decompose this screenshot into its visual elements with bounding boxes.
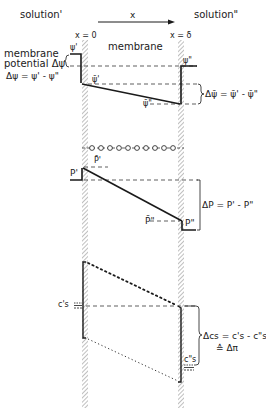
- cs-left-marks: [74, 303, 82, 308]
- delta-psi-definition: Δψ = ψ' - ψ": [6, 71, 59, 81]
- delta-psibar-label: Δψ̄ = ψ̄' - ψ̄": [205, 89, 258, 99]
- x-axis-label: x: [130, 10, 135, 20]
- cs-right-label: c"s: [184, 355, 196, 365]
- concentration-walls-bold: [83, 262, 181, 382]
- membrane-label: membrane: [108, 42, 163, 52]
- p-left-label: P': [70, 168, 78, 178]
- p-right-label: P": [185, 218, 195, 228]
- psibar-left-label: ψ̄': [92, 75, 99, 85]
- pbar-left-label: P̄': [94, 156, 101, 166]
- delta-cs-label: Δcs = c's - c"s: [203, 331, 266, 341]
- delta-psibar-brace: [198, 84, 204, 104]
- x0-label: x = 0: [75, 31, 97, 41]
- delta-pi-label: ≙ Δπ: [216, 343, 238, 353]
- section-separator: [82, 146, 184, 151]
- xdelta-label: x = δ: [170, 31, 191, 41]
- delta-p-bracket: [197, 180, 200, 230]
- psi-right-label: ψ": [183, 56, 192, 66]
- pbar-right-label: P̄": [145, 216, 155, 226]
- concentration-lower-dotted: [88, 339, 178, 381]
- psibar-right-label: ψ̄": [143, 99, 152, 109]
- cs-left-label: c's: [58, 300, 69, 310]
- left-membrane-wall: [82, 40, 88, 408]
- pressure-profile: [70, 168, 196, 230]
- membrane-potential-title-2: potential Δψ: [4, 59, 65, 69]
- x-axis-arrow: [98, 20, 175, 25]
- solution-left-label: solution': [20, 10, 62, 20]
- potential-profile: [70, 54, 197, 104]
- concentration-upper-dotted: [88, 263, 176, 305]
- delta-p-label: ΔP = P' - P": [202, 200, 253, 210]
- psi-left-label: ψ': [70, 43, 77, 53]
- cs-right-marks: [184, 365, 194, 370]
- solution-right-label: solution": [194, 10, 238, 20]
